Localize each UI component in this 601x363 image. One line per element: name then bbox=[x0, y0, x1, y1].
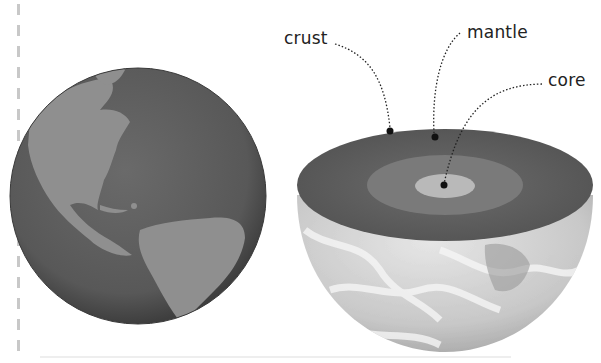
globe-icon bbox=[10, 63, 266, 324]
bottom-divider bbox=[40, 356, 511, 358]
earth-cross-section bbox=[297, 129, 593, 352]
crust-leader-line bbox=[335, 44, 390, 128]
crust-marker bbox=[387, 128, 394, 135]
crust-label: crust bbox=[284, 28, 328, 48]
mantle-label: mantle bbox=[467, 22, 528, 42]
mantle-leader-line bbox=[434, 33, 460, 133]
core-marker bbox=[441, 182, 448, 189]
mantle-marker bbox=[432, 134, 439, 141]
earth-diagram bbox=[0, 0, 601, 363]
core-label: core bbox=[548, 70, 586, 90]
